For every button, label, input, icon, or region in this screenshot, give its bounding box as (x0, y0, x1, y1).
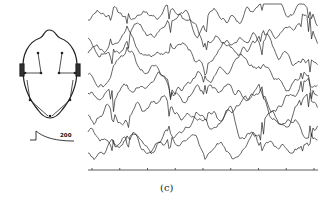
eeg-trace-ch1 (88, 4, 318, 38)
eeg-trace-ch7 (88, 106, 318, 154)
electrode-lines (25, 53, 75, 116)
head-outline (23, 30, 77, 118)
eeg-trace-ch6 (88, 84, 318, 129)
figure-caption: (c) (160, 182, 173, 193)
right-ear (76, 64, 80, 76)
calibration-pulse: 200 (30, 131, 74, 141)
left-ear (20, 64, 24, 76)
eeg-trace-ch8 (88, 132, 318, 159)
head-diagram (20, 30, 80, 118)
eeg-figure: 200 (0, 0, 332, 208)
electrodes (24, 52, 77, 118)
time-axis (88, 168, 318, 170)
calibration-label: 200 (60, 132, 72, 138)
eeg-traces (88, 4, 318, 160)
eeg-trace-ch5 (88, 72, 318, 112)
eeg-trace-ch4 (88, 47, 318, 97)
